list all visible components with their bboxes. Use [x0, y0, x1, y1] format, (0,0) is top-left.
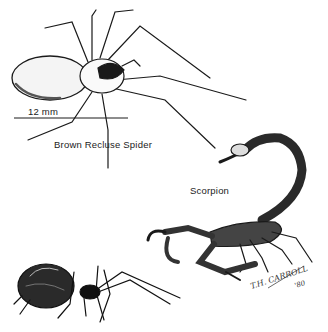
- spider-caption: Brown Recluse Spider: [54, 139, 152, 150]
- scale-bar-label: 12 mm: [28, 106, 58, 117]
- scorpion-caption: Scorpion: [190, 185, 229, 196]
- illustration-canvas: 12 mm Brown Recluse Spider Scorpion T.H.…: [0, 0, 328, 332]
- scorpion-drawing: [148, 138, 312, 280]
- black-widow-spider-drawing: [14, 264, 180, 322]
